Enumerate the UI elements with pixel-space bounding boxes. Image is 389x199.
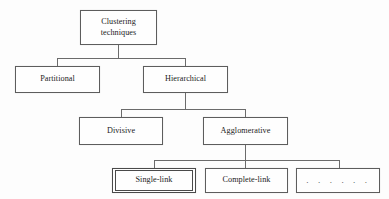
edge-to-agglomerative: [245, 109, 246, 117]
node-more-ellipsis[interactable]: . . . . . .: [296, 168, 380, 193]
node-single-link[interactable]: Single-link: [112, 168, 196, 193]
node-agglomerative[interactable]: Agglomerative: [203, 117, 288, 145]
node-divisive[interactable]: Divisive: [79, 117, 163, 145]
node-label: . . . . . .: [303, 175, 372, 187]
node-label: Single-link: [134, 175, 175, 186]
edge-to-single-link: [154, 160, 155, 168]
node-clustering-techniques[interactable]: Clustering techniques: [80, 10, 157, 45]
node-complete-link[interactable]: Complete-link: [205, 168, 288, 193]
node-hierarchical[interactable]: Hierarchical: [143, 66, 228, 93]
edge-hierarchical-stem: [185, 93, 186, 109]
edge-to-hierarchical: [185, 58, 186, 66]
diagram-canvas: Clustering techniques Partitional Hierar…: [0, 0, 389, 199]
edge-to-divisive: [121, 109, 122, 117]
node-partitional[interactable]: Partitional: [15, 66, 100, 93]
node-label: Hierarchical: [163, 74, 208, 85]
node-label: Divisive: [105, 126, 137, 137]
edge-level4-bus: [154, 160, 340, 161]
edge-root-stem: [118, 45, 119, 58]
node-label: Complete-link: [221, 175, 273, 186]
node-label: Clustering techniques: [99, 17, 139, 38]
edge-to-more: [339, 160, 340, 168]
edge-level2-bus: [57, 58, 186, 59]
node-inner-border: Single-link: [115, 170, 193, 191]
edge-level3-bus: [121, 109, 246, 110]
edge-to-complete-link: [245, 160, 246, 168]
node-label: Partitional: [38, 74, 77, 85]
edge-to-partitional: [57, 58, 58, 66]
node-label: Agglomerative: [219, 126, 273, 137]
edge-agglomerative-stem: [245, 145, 246, 160]
